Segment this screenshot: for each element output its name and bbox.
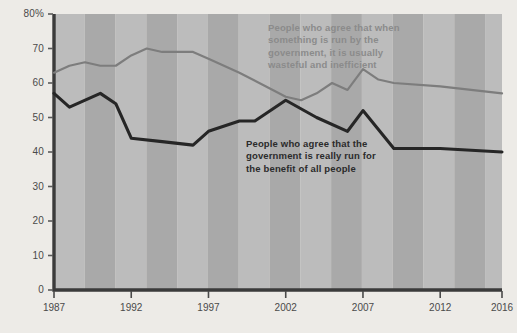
series-label-wasteful-inefficient: People who agree that when something is … — [268, 22, 400, 72]
y-tick-20: 20 — [0, 215, 44, 226]
y-tick-30: 30 — [0, 181, 44, 192]
x-tick-1992: 1992 — [107, 302, 155, 313]
y-tick-60: 60 — [0, 77, 44, 88]
y-tick-50: 50 — [0, 112, 44, 123]
x-tick-1997: 1997 — [184, 302, 232, 313]
x-tick-2012: 2012 — [416, 302, 464, 313]
y-tick-70: 70 — [0, 43, 44, 54]
chart-container: 80%706050403020100 198719921997200220072… — [0, 0, 517, 333]
x-tick-1987: 1987 — [30, 302, 78, 313]
y-tick-80pct: 80% — [0, 8, 44, 19]
y-tick-40: 40 — [0, 146, 44, 157]
x-tick-2002: 2002 — [262, 302, 310, 313]
x-tick-2007: 2007 — [339, 302, 387, 313]
y-tick-0: 0 — [0, 284, 44, 295]
x-tick-2016: 2016 — [478, 302, 517, 313]
y-tick-10: 10 — [0, 250, 44, 261]
series-label-benefit-of-all-people: People who agree that the government is … — [246, 138, 376, 175]
